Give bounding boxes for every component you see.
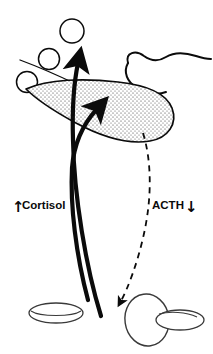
cortisol-label-text: Cortisol [22, 199, 65, 211]
hormone-circle [60, 19, 84, 43]
hormone-circle [39, 49, 60, 70]
acth-down-arrow-icon: ↓ [185, 198, 198, 216]
hpa-axis-diagram: ↑ Cortisol ACTH ↓ [0, 0, 213, 354]
gland-outline [29, 303, 83, 323]
flat-ellipse-gland [29, 303, 83, 323]
acth-label-text: ACTH [152, 199, 184, 211]
diagram-canvas: ↑ Cortisol ACTH ↓ [0, 0, 213, 354]
